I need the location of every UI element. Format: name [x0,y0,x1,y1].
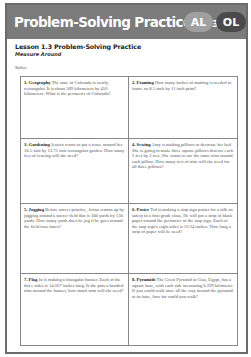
level-badge-al: AL [184,12,213,32]
worksheet-frame: Problem-Solving Practice (p. 37) AL OL L… [5,3,248,354]
lesson-title: Lesson 1.3 Problem-Solving Practice [15,43,141,50]
problem-cell: 8. Pyramids The Great Pyramid at Giza, E… [129,274,237,345]
problem-cell: 7. Flag Jo is making a triangular banner… [21,274,129,345]
problem-topic: Flag [29,277,38,282]
problem-cell: 3. Gardening Jessica wants to put a fenc… [21,139,129,204]
problem-text: Jo is making a triangular banner. Each o… [24,277,124,293]
lesson-subtitle: Measure Around [15,51,141,57]
problem-topic: Pyramids [137,277,156,282]
title-banner: Problem-Solving Practice (p. 37) AL OL [7,5,246,39]
problem-cell: 5. Jogging Before soccer practice, Jovan… [21,204,129,274]
problem-cell: 1. Geography The state of Colorado is ne… [21,77,129,139]
problem-topic: Poster [137,207,150,212]
problem-cell: 2. Framing How many inches of matting is… [129,77,237,139]
problem-topic: Sewing [137,142,151,147]
problem-topic: Gardening [29,142,50,147]
problem-cell: 4. Sewing Amy is making pillows to decor… [129,139,237,204]
lesson-header: Lesson 1.3 Problem-Solving Practice Meas… [15,43,141,57]
problem-grid: 1. Geography The state of Colorado is ne… [20,76,238,346]
level-badge-ol: OL [216,12,246,32]
problem-topic: Geography [29,80,51,85]
problem-cell: 6. Poster Ted is making a stop sign post… [129,204,237,274]
problem-topic: Jogging [29,207,44,212]
instruction-text: Solve. [15,65,28,70]
problem-topic: Framing [137,80,154,85]
